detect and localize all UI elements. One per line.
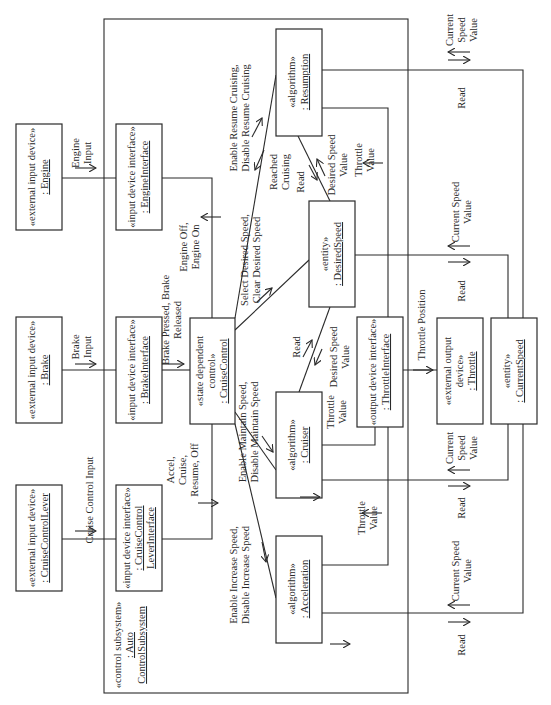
msg-lever-cmds-1: Accel,: [165, 456, 176, 483]
msg-engine-onoff-2: Engine On: [190, 224, 201, 270]
engine-name: : Engine: [39, 159, 50, 195]
msg-acc-throttle-val-2: Value: [368, 506, 379, 530]
msg-cru-throttle-val-2: Value: [337, 400, 348, 424]
msg-res-throttle-val-2: Value: [365, 148, 376, 172]
lever-if-name-1: : CruiseControl: [133, 505, 144, 570]
current-speed-stereotype: «entity»: [501, 354, 512, 388]
lever-if-name-2: LeverInterface: [145, 507, 156, 569]
msg-brake-pressed-1: Brake Pressed, Brake: [160, 275, 171, 365]
msg-ds-cs-read: Read: [456, 279, 467, 301]
lever-if-stereotype: «input device interface»: [121, 487, 132, 588]
msg-resume-cruise-1: Enable Resume Cruising,: [228, 64, 239, 171]
brake-name: : Brake: [39, 354, 50, 385]
msg-increase-speed-2: Disable Increase Speed: [240, 525, 251, 624]
msg-cru-read: Read: [291, 335, 302, 357]
resumption-stereotype: «algorithm»: [286, 56, 297, 107]
cc-stereotype-1: «state dependent: [194, 336, 205, 406]
msg-throttle-position: Throttle Position: [416, 289, 427, 361]
msg-engine-onoff-1: Engine Off,: [178, 222, 189, 271]
throttle-stereotype-1: «external output: [442, 337, 453, 406]
msg-select-desired-2: Clear Desired Speed: [251, 216, 262, 303]
msg-lever-cmds-3: Resume, Off: [189, 443, 200, 497]
msg-cru-cs-val-1: Current: [444, 432, 455, 464]
msg-reached-cruising-2: Cruising: [280, 153, 291, 190]
engine-if-stereotype: «input device interface»: [126, 126, 137, 227]
msg-res-cs-val-1: Current: [444, 14, 455, 46]
brake-if-name: : BrakeInterface: [139, 336, 150, 404]
arrow-diagonal-icon: [315, 349, 322, 365]
msg-cru-cs-val-3: Value: [468, 436, 479, 460]
engine-if-name: : EngineInterface: [139, 140, 150, 213]
subsystem-name-2: ControlSubsystem: [136, 606, 147, 684]
cc-name: : CruiseControl: [218, 338, 229, 403]
resumption-name: : Resumption: [299, 53, 310, 110]
msg-lever-cmds-2: Cruise,: [177, 455, 188, 485]
msg-brake-input-2: Input: [82, 336, 93, 358]
subsystem-name-1: : Auto: [124, 632, 135, 658]
throttle-name: : Throttle: [466, 351, 477, 391]
throttle-if-stereotype: «output device interface»: [367, 319, 378, 426]
msg-acc-cs-val-1: Current Speed: [450, 540, 461, 601]
msg-ds-cs-val-2: Value: [462, 200, 473, 224]
desired-speed-name: : DesiredSpeed: [332, 221, 343, 286]
msg-reached-cruising-1: Reached: [268, 153, 279, 190]
msg-brake-input-1: Brake: [70, 334, 81, 359]
throttle-if-name: : ThrottleInterface: [380, 333, 391, 410]
throttle-stereotype-2: device»: [454, 355, 465, 388]
arrow-diagonal-icon: [317, 159, 325, 176]
msg-engine-input-2: Input: [82, 142, 93, 164]
msg-res-throttle-val-1: Throttle: [353, 143, 364, 177]
msg-cru-cs-val-2: Speed: [456, 434, 467, 460]
msg-cru-throttle-val-1: Throttle: [325, 395, 336, 429]
arrow-diagonal-icon: [303, 340, 312, 357]
engine-stereotype: «external input device»: [26, 128, 37, 227]
msg-brake-pressed-2: Released: [172, 300, 183, 339]
cruiser-stereotype: «algorithm»: [286, 419, 297, 470]
msg-res-cs-read: Read: [456, 86, 467, 108]
msg-maintain-speed-1: Enable Maintain Speed,: [237, 382, 248, 483]
acceleration-stereotype: «algorithm»: [286, 563, 297, 614]
msg-res-desired-val-2: Value: [338, 153, 349, 177]
arrow-diagonal-icon: [262, 436, 273, 452]
cc-stereotype-2: control»: [206, 354, 217, 389]
cruiser-name: : Cruiser: [299, 426, 310, 463]
desired-speed-stereotype: «entity»: [319, 237, 330, 271]
lever-name: : CruiseControlLever: [39, 493, 50, 583]
msg-cru-cs-read: Read: [456, 496, 467, 518]
msg-lever-input: Cruise Control Input: [84, 456, 95, 543]
brake-stereotype: «external input device»: [26, 321, 37, 420]
msg-engine-input-1: Engine: [70, 138, 81, 168]
subsystem-stereotype: «control subsystem»: [112, 602, 123, 689]
msg-res-cs-val-3: Value: [468, 18, 479, 42]
msg-acc-throttle-val-1: Throttle: [356, 501, 367, 535]
msg-acc-cs-val-2: Value: [462, 559, 473, 583]
msg-acc-cs-read: Read: [456, 633, 467, 655]
communication-diagram: «external input device» : Engine «extern…: [0, 0, 551, 705]
msg-res-desired-val-1: Desired Speed: [326, 134, 337, 196]
arrow-diagonal-icon: [252, 118, 262, 137]
msg-increase-speed-1: Enable Increase Speed,: [228, 526, 239, 624]
lever-stereotype: «external input device»: [26, 489, 37, 588]
arrow-diagonal-icon: [255, 150, 264, 170]
msg-select-desired-1: Select Desired Speed,: [239, 214, 250, 306]
current-speed-name: : CurrentSpeed: [514, 339, 525, 403]
msg-ds-cs-val-1: Current Speed: [450, 181, 461, 242]
msg-res-cs-val-2: Speed: [456, 16, 467, 42]
msg-cru-desired-val-2: Value: [340, 345, 351, 369]
acceleration-name: : Acceleration: [299, 559, 310, 618]
brake-if-stereotype: «input device interface»: [126, 319, 137, 420]
msg-cru-desired-val-1: Desired Speed: [328, 326, 339, 388]
msg-maintain-speed-2: Disable Maintain Speed: [249, 381, 260, 483]
msg-resume-cruise-2: Disable Resume Cruising: [240, 64, 251, 172]
msg-res-read: Read: [295, 170, 306, 192]
